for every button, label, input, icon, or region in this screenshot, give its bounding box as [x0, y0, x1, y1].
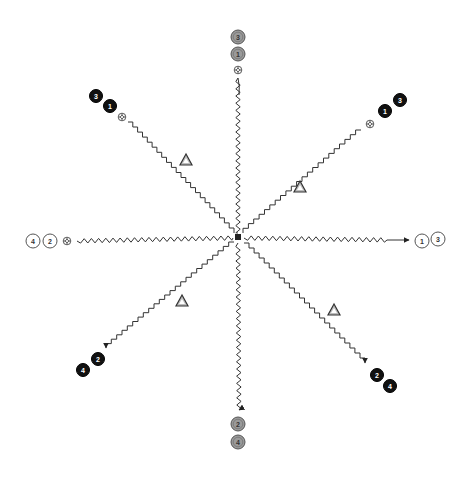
ball-icon [63, 237, 71, 245]
player-white-4: 4 [26, 234, 40, 248]
player-label: 3 [398, 97, 402, 104]
player-label: 1 [108, 103, 112, 110]
path-right [244, 236, 387, 242]
player-black-4: 4 [384, 380, 397, 393]
player-black-1: 1 [379, 105, 392, 118]
path-left [77, 236, 233, 243]
player-label: 3 [94, 93, 98, 100]
player-label: 1 [420, 238, 424, 245]
player-label: 2 [375, 372, 379, 379]
player-label: 4 [388, 383, 392, 390]
path-bottom-right [244, 243, 365, 363]
player-black-2: 2 [92, 353, 105, 366]
player-gray-3: 3 [231, 30, 245, 44]
cones-layer [176, 154, 340, 315]
player-white-1: 1 [415, 234, 429, 248]
player-black-2: 2 [371, 369, 384, 382]
paths-layer [77, 78, 409, 410]
player-gray-1: 1 [231, 47, 245, 61]
path-top-right [243, 130, 361, 233]
player-white-2: 2 [43, 234, 57, 248]
path-bottom-left [106, 242, 234, 348]
player-label: 2 [236, 421, 240, 428]
balls-layer [63, 66, 374, 245]
player-label: 2 [48, 238, 52, 245]
drill-diagram: 3131134213422424 [0, 0, 461, 477]
path-top [236, 78, 240, 233]
player-label: 1 [383, 108, 387, 115]
player-black-4: 4 [77, 364, 90, 377]
player-label: 3 [436, 236, 440, 243]
ball-icon [366, 120, 374, 128]
player-label: 2 [96, 356, 100, 363]
path-top-left [128, 122, 234, 233]
ball-icon [118, 113, 126, 121]
player-gray-4: 4 [231, 435, 245, 449]
player-black-3: 3 [90, 90, 103, 103]
player-label: 3 [236, 34, 240, 41]
player-black-1: 1 [104, 100, 117, 113]
player-black-3: 3 [394, 94, 407, 107]
center-point [235, 234, 241, 240]
player-white-3: 3 [431, 232, 445, 246]
ball-icon [234, 66, 242, 74]
player-label: 1 [236, 51, 240, 58]
player-label: 4 [81, 367, 85, 374]
path-bottom [236, 243, 241, 410]
player-label: 4 [236, 439, 240, 446]
player-gray-2: 2 [231, 417, 245, 431]
player-label: 4 [31, 238, 35, 245]
